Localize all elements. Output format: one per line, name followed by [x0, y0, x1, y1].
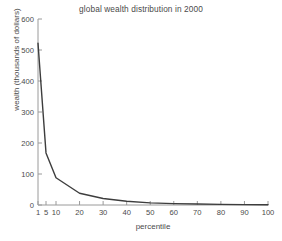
chart-figure: global wealth distribution in 2000 600 5…	[0, 0, 282, 241]
data-series-line	[38, 43, 268, 205]
x-tick-label: 100	[262, 208, 275, 217]
y-tick-label: 300	[21, 108, 34, 117]
x-tick-label: 80	[217, 208, 225, 217]
y-tick-label: 200	[21, 139, 34, 148]
x-tick-labels: 15102030405060708090100	[36, 208, 274, 217]
y-tick-label: 100	[21, 170, 34, 179]
y-tick-label: 500	[21, 46, 34, 55]
x-tick-label: 60	[170, 208, 178, 217]
y-tick-label: 600	[21, 15, 34, 24]
y-tick-label: 0	[30, 201, 34, 210]
y-tick-label: 400	[21, 77, 34, 86]
y-axis-label: wealth (thousands of dollars)	[12, 0, 21, 130]
x-tick-label: 40	[122, 208, 130, 217]
x-tick-label: 30	[99, 208, 107, 217]
plot-area: 600 500 400 300 200 100 0 15102030405060…	[0, 0, 282, 241]
y-tick-labels: 600 500 400 300 200 100 0	[21, 15, 34, 210]
x-tick-label: 5	[44, 208, 48, 217]
x-tick-label: 1	[36, 208, 40, 217]
x-tick-label: 10	[52, 208, 60, 217]
x-tick-label: 20	[75, 208, 83, 217]
x-tick-label: 90	[240, 208, 248, 217]
x-axis-label: percentile	[38, 222, 268, 231]
x-tick-label: 70	[193, 208, 201, 217]
x-tick-label: 50	[146, 208, 154, 217]
